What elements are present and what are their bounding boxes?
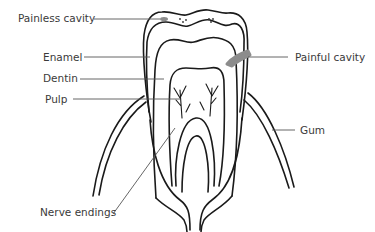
tooth-diagram [0, 0, 375, 232]
painless-cavity-spot [160, 17, 168, 21]
label-gum: Gum [300, 125, 325, 136]
label-painless-cavity: Painless cavity [18, 13, 95, 24]
label-enamel: Enamel [43, 52, 82, 63]
root-inner-right [201, 196, 232, 232]
pulp-chamber-outline [169, 68, 224, 186]
label-nerve-endings: Nerve endings [40, 207, 116, 218]
label-dentin: Dentin [43, 73, 78, 84]
gum-right [244, 93, 294, 188]
root-inner-left [156, 198, 187, 232]
painful-cavity-spot [227, 51, 250, 66]
nerve-endings [174, 84, 218, 118]
gum-left [93, 96, 146, 196]
label-pulp: Pulp [45, 94, 67, 105]
pulp-canal-lower [182, 136, 209, 192]
leader-nerve-endings [113, 128, 175, 214]
label-painful-cavity: Painful cavity [295, 52, 365, 63]
